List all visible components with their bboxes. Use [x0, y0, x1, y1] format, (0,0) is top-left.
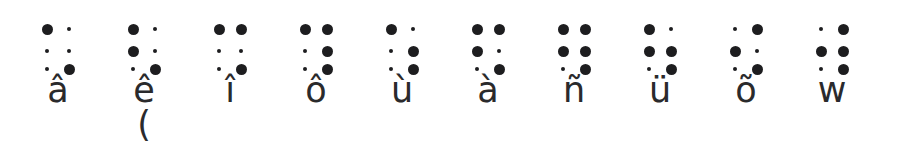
- braille-cell: õ: [710, 0, 796, 158]
- braille-dot-2-empty: [303, 49, 307, 53]
- braille-cell: ü: [624, 0, 710, 158]
- braille-dot-grid: [36, 18, 80, 76]
- braille-cell-letter: ù: [366, 70, 438, 110]
- braille-cell: â: [22, 0, 108, 158]
- braille-dot-5-empty: [755, 49, 759, 53]
- braille-dot-4-filled: [322, 24, 333, 35]
- braille-dot-4-filled: [494, 24, 505, 35]
- braille-dot-2-filled: [558, 46, 569, 57]
- braille-dot-4-empty: [669, 27, 673, 31]
- braille-cell: w: [796, 0, 882, 158]
- braille-cell-letter: à: [452, 70, 524, 110]
- braille-dot-1-filled: [644, 24, 655, 35]
- braille-dot-1-filled: [42, 24, 53, 35]
- braille-dot-1-filled: [128, 24, 139, 35]
- braille-cell-letter: ñ: [538, 70, 610, 110]
- braille-dot-grid: [810, 18, 854, 76]
- braille-cell: ô: [280, 0, 366, 158]
- braille-dot-1-empty: [819, 27, 823, 31]
- braille-dot-5-filled: [408, 46, 419, 57]
- braille-dot-5-empty: [497, 49, 501, 53]
- braille-cell-letter: õ: [710, 70, 782, 110]
- braille-dot-4-filled: [752, 24, 763, 35]
- braille-dot-4-filled: [236, 24, 247, 35]
- braille-cell: ù: [366, 0, 452, 158]
- braille-dot-2-filled: [816, 46, 827, 57]
- braille-cell: ê(: [108, 0, 194, 158]
- braille-dot-5-empty: [67, 49, 71, 53]
- braille-dot-4-filled: [838, 24, 849, 35]
- braille-cell: à: [452, 0, 538, 158]
- braille-dot-5-filled: [580, 46, 591, 57]
- braille-dot-grid: [724, 18, 768, 76]
- braille-dot-2-filled: [128, 46, 139, 57]
- braille-cell-letter: î: [194, 70, 266, 110]
- braille-dot-4-filled: [580, 24, 591, 35]
- braille-dot-grid: [122, 18, 166, 76]
- braille-dot-2-filled: [472, 46, 483, 57]
- braille-cell: ñ: [538, 0, 624, 158]
- braille-dot-1-filled: [558, 24, 569, 35]
- braille-cell-letter: ü: [624, 70, 696, 110]
- braille-dot-2-filled: [730, 46, 741, 57]
- braille-dot-1-filled: [214, 24, 225, 35]
- braille-cell-letter: ô: [280, 70, 352, 110]
- braille-dot-1-filled: [300, 24, 311, 35]
- braille-dot-1-empty: [733, 27, 737, 31]
- braille-cell-note: (: [108, 104, 180, 144]
- braille-dot-2-empty: [217, 49, 221, 53]
- braille-dot-5-empty: [239, 49, 243, 53]
- braille-dot-4-empty: [153, 27, 157, 31]
- braille-dot-grid: [208, 18, 252, 76]
- braille-dot-2-empty: [389, 49, 393, 53]
- braille-dot-5-empty: [153, 49, 157, 53]
- braille-dot-grid: [552, 18, 596, 76]
- braille-dot-4-empty: [67, 27, 71, 31]
- braille-dot-5-filled: [838, 46, 849, 57]
- braille-cell-row: âê(îôùàñüõw: [0, 0, 904, 158]
- braille-dot-grid: [466, 18, 510, 76]
- braille-dot-1-filled: [386, 24, 397, 35]
- braille-dot-2-filled: [644, 46, 655, 57]
- braille-dot-1-filled: [472, 24, 483, 35]
- braille-dot-5-filled: [666, 46, 677, 57]
- braille-chart: âê(îôùàñüõw: [0, 0, 904, 158]
- braille-dot-grid: [294, 18, 338, 76]
- braille-cell-letter: â: [22, 70, 94, 110]
- braille-dot-5-filled: [322, 46, 333, 57]
- braille-cell-letter: w: [796, 70, 868, 110]
- braille-dot-grid: [380, 18, 424, 76]
- braille-cell: î: [194, 0, 280, 158]
- braille-dot-4-empty: [411, 27, 415, 31]
- braille-dot-grid: [638, 18, 682, 76]
- braille-dot-2-empty: [45, 49, 49, 53]
